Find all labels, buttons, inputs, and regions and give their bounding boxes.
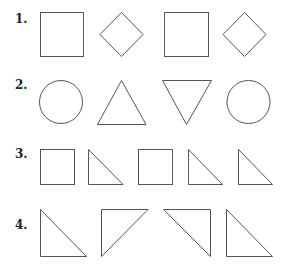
row-2-triangle-up	[98, 81, 147, 125]
row-2-shapes	[40, 81, 271, 125]
row-1-shapes	[41, 13, 267, 57]
row-4-shapes	[41, 210, 273, 257]
row-2-circle-2	[227, 81, 270, 124]
row-3-square-1	[41, 150, 75, 185]
row-1-diamond-2	[223, 13, 266, 57]
row-4-triangle-top-left	[102, 210, 149, 257]
row-1-square-1	[41, 13, 84, 57]
row-2-triangle-down	[163, 81, 212, 125]
row-3-square-2	[139, 150, 173, 185]
row-4-triangle-bottom-left	[41, 210, 87, 257]
shape-pattern-worksheet: 1. 2. 3. 4.	[0, 0, 286, 271]
row-1-square-2	[165, 13, 209, 57]
row-4-triangle-bottom-left-2	[227, 210, 273, 257]
row-3-right-triangle-3	[239, 150, 273, 185]
row-3-right-triangle-1	[89, 150, 124, 185]
row-2-circle-1	[40, 81, 83, 124]
shapes-canvas	[0, 0, 286, 271]
row-3-shapes	[41, 150, 273, 185]
row-3-right-triangle-2	[189, 150, 223, 185]
row-4-triangle-top-right	[164, 210, 211, 257]
row-1-diamond-1	[100, 13, 143, 57]
